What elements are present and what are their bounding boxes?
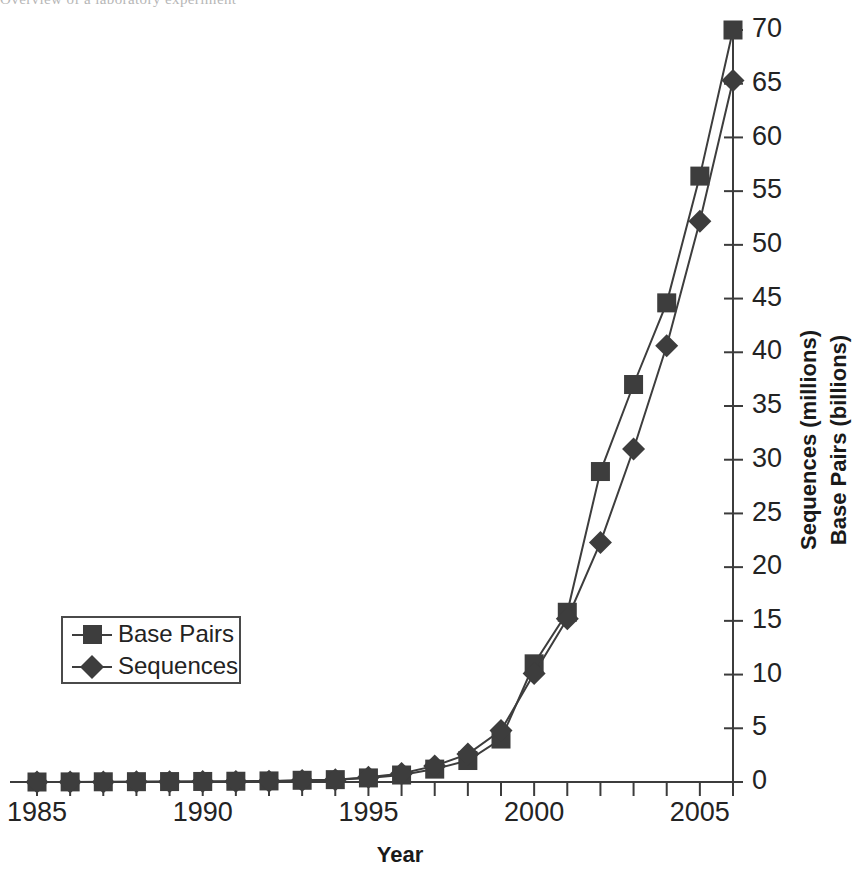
diamond-marker	[622, 437, 645, 460]
y-axis-title-base-pairs: Base Pairs (billions)	[826, 335, 851, 545]
chart-legend: Base Pairs Sequences	[62, 617, 240, 683]
diamond-marker	[655, 334, 678, 357]
y-tick-label: 70	[752, 13, 782, 43]
square-marker	[624, 375, 643, 394]
y-tick-label: 5	[752, 711, 767, 741]
y-tick-label: 20	[752, 550, 782, 580]
y-tick-label: 10	[752, 658, 782, 688]
y-tick-label: 60	[752, 121, 782, 151]
square-marker-icon	[83, 625, 102, 644]
chart-figure: 0510152025303540455055606570 19851990199…	[0, 0, 859, 890]
y-tick-label: 35	[752, 389, 782, 419]
series-sequences	[26, 69, 745, 794]
y-tick-label: 50	[752, 228, 782, 258]
x-tick-label: 2005	[670, 797, 730, 827]
x-axis-title: Year	[377, 842, 424, 867]
diamond-marker	[722, 69, 745, 92]
square-marker	[724, 21, 743, 40]
y-tick-label: 30	[752, 443, 782, 473]
y-axis-tick-labels: 0510152025303540455055606570	[752, 13, 782, 795]
y-tick-label: 15	[752, 604, 782, 634]
y-tick-label: 55	[752, 174, 782, 204]
y-axis-title-sequences: Sequences (millions)	[796, 330, 821, 550]
x-tick-label: 2000	[504, 797, 564, 827]
square-marker	[591, 462, 610, 481]
x-tick-label: 1990	[173, 797, 233, 827]
square-marker	[690, 167, 709, 186]
x-axis-tick-labels: 19851990199520002005	[7, 797, 730, 827]
y-tick-label: 40	[752, 335, 782, 365]
y-tick-label: 0	[752, 765, 767, 795]
diamond-marker	[688, 210, 711, 233]
legend-label-base-pairs: Base Pairs	[118, 620, 234, 647]
legend-label-sequences: Sequences	[118, 652, 238, 679]
y-tick-label: 25	[752, 497, 782, 527]
square-marker	[657, 293, 676, 312]
diamond-marker	[589, 531, 612, 554]
x-tick-label: 1985	[7, 797, 67, 827]
chart-plot-area: 0510152025303540455055606570 19851990199…	[0, 0, 859, 890]
y-tick-label: 45	[752, 282, 782, 312]
y-tick-label: 65	[752, 67, 782, 97]
x-tick-label: 1995	[338, 797, 398, 827]
